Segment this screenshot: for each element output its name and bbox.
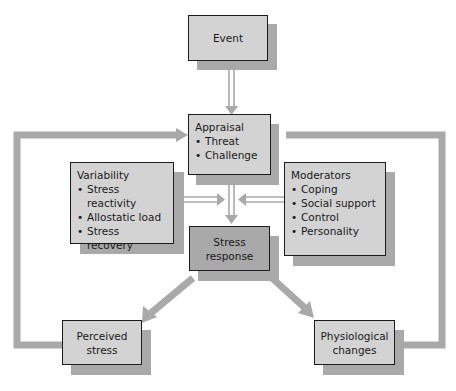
appraisal-title: Appraisal bbox=[195, 120, 264, 134]
moderators-node: Moderators Coping Social support Control… bbox=[284, 162, 386, 256]
event-node: Event bbox=[188, 15, 268, 61]
variability-item-allostatic-load: Allostatic load bbox=[77, 210, 167, 224]
event-label: Event bbox=[213, 31, 243, 45]
variability-node: Variability Stress reactivity Allostatic… bbox=[70, 162, 174, 244]
moderators-item-social-support: Social support bbox=[291, 196, 379, 210]
moderators-title: Moderators bbox=[291, 168, 379, 182]
appraisal-node: Appraisal Threat Challenge bbox=[188, 114, 271, 175]
moderators-item-control: Control bbox=[291, 210, 379, 224]
edge-stress-response-to-perceived-stress bbox=[142, 278, 193, 323]
physiological-changes-node: Physiological changes bbox=[314, 320, 395, 365]
physiological-changes-line2: changes bbox=[332, 343, 376, 357]
edge-stress-response-to-physiological-changes bbox=[272, 278, 314, 318]
perceived-stress-line2: stress bbox=[86, 343, 117, 357]
appraisal-item-challenge: Challenge bbox=[195, 148, 264, 162]
stress-response-node: Stress response bbox=[189, 226, 270, 271]
moderators-item-personality: Personality bbox=[291, 224, 379, 238]
variability-list: Stress reactivity Allostatic load Stress… bbox=[77, 182, 167, 252]
stress-response-line1: Stress bbox=[213, 235, 245, 249]
appraisal-item-threat: Threat bbox=[195, 134, 264, 148]
variability-title: Variability bbox=[77, 168, 167, 182]
perceived-stress-node: Perceived stress bbox=[62, 320, 142, 365]
stress-response-line2: response bbox=[206, 249, 254, 263]
moderators-list: Coping Social support Control Personalit… bbox=[291, 182, 379, 238]
variability-item-stress-recovery: Stress recovery bbox=[77, 224, 167, 252]
variability-item-stress-reactivity: Stress reactivity bbox=[77, 182, 167, 210]
moderators-item-coping: Coping bbox=[291, 182, 379, 196]
perceived-stress-line1: Perceived bbox=[77, 329, 128, 343]
physiological-changes-line1: Physiological bbox=[320, 329, 388, 343]
edge-moderators-to-stress-response bbox=[238, 193, 284, 206]
appraisal-list: Threat Challenge bbox=[195, 134, 264, 162]
